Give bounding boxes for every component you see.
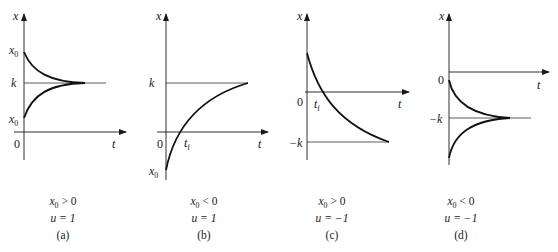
caption-d: (d): [431, 230, 491, 242]
tick-neg-k-d: −k: [429, 113, 442, 125]
origin-label-a: 0: [14, 138, 20, 150]
panel-b: [157, 14, 268, 180]
condition-u-d: u = −1: [431, 213, 491, 225]
condition-x0-c: x0 > 0: [302, 196, 362, 210]
panel-a: [14, 14, 126, 160]
caption-b: (b): [174, 230, 234, 242]
caption-c: (c): [302, 230, 362, 242]
axis-label-t-d: t: [537, 79, 540, 91]
condition-x0-d: x0 < 0: [431, 196, 491, 210]
condition-u-a: u = 1: [33, 213, 93, 225]
axis-label-x-b: x: [156, 10, 161, 22]
curve-b: [166, 83, 248, 170]
curve-upper-a: [24, 52, 85, 83]
panel-c: [305, 14, 409, 160]
axis-label-t-b: t: [258, 138, 261, 150]
tick-k-a: k: [11, 77, 16, 89]
condition-x0-b: x0 < 0: [174, 196, 234, 210]
curve-lower-a: [24, 83, 85, 118]
tick-x0-b: x0: [149, 165, 158, 180]
origin-label-c: 0: [297, 96, 303, 108]
curve-upper-d: [449, 80, 510, 118]
condition-x0-a: x0 > 0: [33, 196, 93, 210]
origin-label-d: 0: [438, 74, 444, 86]
curve-lower-d: [449, 118, 510, 158]
axis-label-t-a: t: [112, 138, 115, 150]
caption-a: (a): [33, 230, 93, 242]
axis-label-x-a: x: [13, 10, 18, 22]
tick-tf-c: tf: [314, 98, 320, 113]
axis-label-t-c: t: [398, 98, 401, 110]
origin-label-b: 0: [157, 138, 163, 150]
panel-d: [449, 14, 549, 165]
tick-tf-b: tf: [184, 137, 190, 152]
condition-u-b: u = 1: [174, 213, 234, 225]
axis-label-x-d: x: [439, 10, 444, 22]
condition-u-c: u = −1: [302, 213, 362, 225]
tick-x0-upper-a: x0: [9, 44, 18, 59]
tick-neg-k-c: −k: [289, 137, 302, 149]
tick-k-b: k: [149, 77, 154, 89]
axis-label-x-c: x: [297, 10, 302, 22]
tick-x0-lower-a: x0: [9, 113, 18, 128]
